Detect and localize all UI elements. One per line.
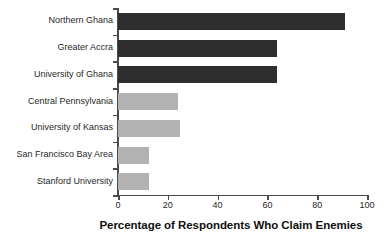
y-axis-tick [113, 142, 118, 144]
y-axis-tick [113, 88, 118, 90]
category-label: University of Ghana [0, 70, 113, 79]
bar [118, 40, 277, 57]
bar-row [118, 35, 367, 62]
bar-row [118, 142, 367, 169]
bar [118, 66, 277, 83]
category-label: Northern Ghana [0, 16, 113, 25]
bar-row [118, 8, 367, 35]
bar-row [118, 168, 367, 195]
category-label: Central Pennsylvania [0, 97, 113, 106]
category-label: Greater Accra [0, 43, 113, 52]
x-axis-tick-label: 40 [213, 201, 223, 210]
bar-row [118, 88, 367, 115]
y-axis-tick [113, 115, 118, 117]
y-axis-tick [113, 8, 118, 10]
bar-chart: Percentage of Respondents Who Claim Enem… [0, 0, 392, 242]
category-label: San Francisco Bay Area [0, 150, 113, 159]
x-axis-tick-label: 0 [115, 201, 120, 210]
y-axis-tick [113, 168, 118, 170]
plot-area [118, 8, 367, 195]
x-axis-tick-label: 100 [359, 201, 374, 210]
x-axis-title: Percentage of Respondents Who Claim Enem… [0, 219, 392, 231]
bar-row [118, 61, 367, 88]
category-label: Stanford University [0, 177, 113, 186]
bar [118, 93, 178, 110]
x-axis-tick-label: 60 [262, 201, 272, 210]
bar [118, 173, 149, 190]
y-axis-tick [113, 61, 118, 63]
bar [118, 120, 180, 137]
bar-row [118, 115, 367, 142]
x-axis-tick-label: 20 [163, 201, 173, 210]
bar [118, 13, 345, 30]
bar [118, 147, 149, 164]
category-label: University of Kansas [0, 123, 113, 132]
y-axis-tick [113, 35, 118, 37]
x-axis-tick-label: 80 [312, 201, 322, 210]
